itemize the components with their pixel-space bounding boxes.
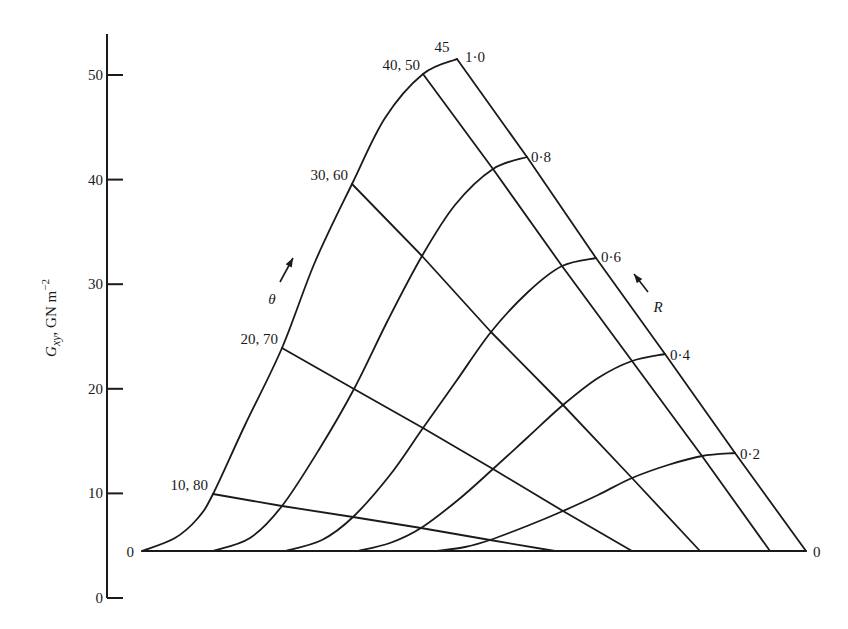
- theta-line: [423, 74, 770, 551]
- theta-line: [352, 184, 700, 551]
- r-direction-indicator: R: [634, 274, 663, 315]
- theta-label: θ: [268, 291, 276, 307]
- r-curve: [285, 258, 596, 551]
- y-tick-label: 0: [96, 590, 104, 606]
- theta-arrow-icon-head: [286, 258, 293, 268]
- y-tick-label: 40: [88, 172, 103, 188]
- r-label: R: [652, 299, 662, 315]
- r-curve: [437, 453, 735, 551]
- y-axis-label: Gxy, GN m−2: [39, 279, 63, 357]
- r-curves: [142, 59, 806, 551]
- y-axis: 01020304050: [88, 34, 123, 606]
- point-label: 10, 80: [171, 477, 209, 493]
- point-label: 0·8: [531, 149, 551, 165]
- theta-line: [213, 494, 555, 551]
- point-label: 45: [435, 39, 450, 55]
- y-tick-label: 30: [88, 276, 103, 292]
- baseline-left-label: 0: [127, 544, 135, 560]
- point-label: 0·6: [601, 249, 621, 265]
- y-tick-label: 50: [88, 67, 103, 83]
- y-tick-label: 20: [88, 381, 103, 397]
- point-label: 1·0: [465, 49, 485, 65]
- r-curve: [358, 354, 665, 551]
- point-label: 40, 50: [383, 57, 421, 73]
- point-label: 30, 60: [311, 167, 349, 183]
- point-label: 0·2: [740, 446, 760, 462]
- carpet-chart: 01020304050 Gxy, GN m−2 10, 8020, 7030, …: [0, 0, 848, 629]
- theta-direction-indicator: θ: [268, 258, 293, 307]
- baseline-right-label: 0: [813, 544, 821, 560]
- y-tick-label: 10: [88, 485, 103, 501]
- point-label: 0·4: [670, 347, 690, 363]
- point-labels: 10, 8020, 7030, 6040, 50451·00·80·60·40·…: [171, 39, 761, 493]
- y-axis-title: Gxy, GN m−2: [39, 279, 63, 357]
- point-label: 20, 70: [241, 331, 279, 347]
- r-curve: [213, 157, 527, 551]
